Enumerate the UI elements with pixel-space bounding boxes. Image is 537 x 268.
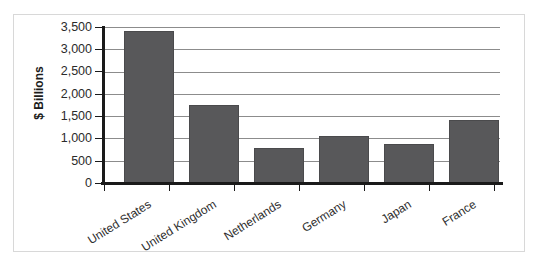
x-category-label-france: France [370,197,479,268]
x-axis-category-labels: United States United Kingdom Netherlands… [0,0,537,268]
chart-figure: $ Billions 3,500 3,000 2,500 2,000 1,500… [0,0,537,268]
